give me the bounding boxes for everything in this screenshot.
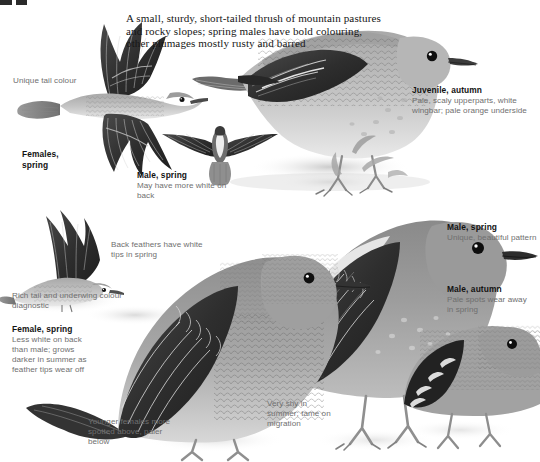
caption-younger-females-body: Younger females more spotted above, pale… xyxy=(88,417,182,447)
caption-juvenile-autumn-body: Pale, scaly upperparts, white wingbar; p… xyxy=(412,96,530,116)
foliage-sprig xyxy=(332,136,409,178)
caption-unique-tail-body: Unique tail colour xyxy=(13,76,83,86)
caption-male-spring-perched-heading: Male, spring xyxy=(447,222,537,233)
figure-male-autumn-perched xyxy=(404,324,540,448)
caption-male-spring-flight-body: May have more white on back xyxy=(137,181,229,201)
figure-male-spring-perched xyxy=(218,220,538,450)
caption-females-spring-heading: Females, spring xyxy=(22,149,82,171)
caption-male-spring-perched-body: Unique, beautiful pattern xyxy=(447,233,537,243)
registration-mark-left xyxy=(0,0,12,5)
caption-back-feathers-body: Back feathers have white tips in spring xyxy=(111,240,211,260)
caption-back-feathers: Back feathers have white tips in spring xyxy=(111,240,211,260)
field-guide-plate: A small, sturdy, short-tailed thrush of … xyxy=(0,0,540,462)
caption-male-autumn-body: Pale spots wear away in spring xyxy=(447,295,535,315)
caption-male-spring-flight-heading: Male, spring xyxy=(137,170,229,181)
caption-female-spring: Female, spring Less white on back than m… xyxy=(12,324,98,375)
caption-male-autumn: Male, autumn Pale spots wear away in spr… xyxy=(447,284,535,315)
caption-juvenile-autumn: Juvenile, autumn Pale, scaly upperparts,… xyxy=(412,85,530,116)
caption-female-spring-body: Less white on back than male; grows dark… xyxy=(12,335,98,375)
caption-rich-tail: Rich tail and underwing colour diagnosti… xyxy=(12,291,122,311)
caption-females-spring: Females, spring xyxy=(22,149,82,171)
caption-younger-females: Younger females more spotted above, pale… xyxy=(88,417,182,447)
caption-rich-tail-body: Rich tail and underwing colour diagnosti… xyxy=(12,291,122,311)
caption-male-autumn-heading: Male, autumn xyxy=(447,284,535,295)
plate-intro-text: A small, sturdy, short-tailed thrush of … xyxy=(126,12,386,50)
caption-male-spring-perched: Male, spring Unique, beautiful pattern xyxy=(447,222,537,243)
caption-juvenile-autumn-heading: Juvenile, autumn xyxy=(412,85,530,96)
caption-very-shy: Very shy in summer; tame on migration xyxy=(267,399,339,429)
registration-mark-right xyxy=(16,0,27,5)
caption-male-spring-flight: Male, spring May have more white on back xyxy=(137,170,229,201)
caption-unique-tail: Unique tail colour xyxy=(13,76,83,86)
caption-very-shy-body: Very shy in summer; tame on migration xyxy=(267,399,339,429)
caption-female-spring-heading: Female, spring xyxy=(12,324,98,335)
